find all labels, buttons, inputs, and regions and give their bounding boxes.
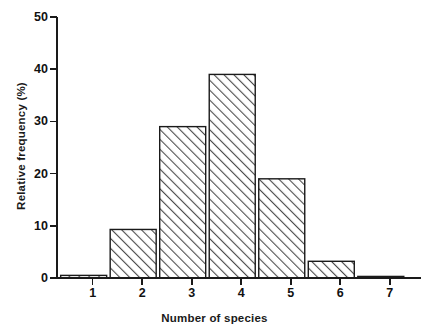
- x-tick-label: 6: [325, 286, 355, 300]
- plot-area: [0, 0, 429, 335]
- bars-group: [61, 74, 404, 278]
- bar: [259, 179, 305, 278]
- x-tick-label: 3: [177, 286, 207, 300]
- x-tick-label: 7: [375, 286, 405, 300]
- bar: [110, 229, 156, 278]
- x-tick-label: 2: [127, 286, 157, 300]
- x-tick-label: 5: [276, 286, 306, 300]
- x-tick-label: 4: [226, 286, 256, 300]
- bar: [160, 127, 206, 278]
- x-tick-label: 1: [78, 286, 108, 300]
- bar: [209, 74, 255, 278]
- bar: [308, 261, 354, 278]
- bar-chart: Relative frequency (%) Number of species…: [0, 0, 429, 335]
